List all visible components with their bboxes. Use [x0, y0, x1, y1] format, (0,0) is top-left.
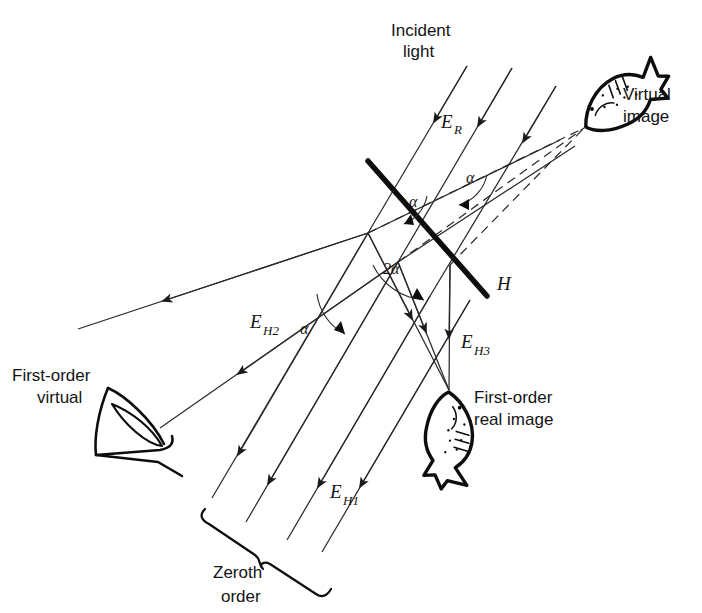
zeroth-ray-3-arrow — [318, 296, 430, 487]
field-label-EH2: E H2 — [249, 311, 279, 338]
virtual-image-label-line1: Virtual — [623, 85, 671, 104]
field-label-ER: E R — [440, 111, 462, 137]
diagram-canvas: Incident light Virtual image First-order… — [0, 0, 702, 613]
zeroth-ray-2-arrow — [268, 262, 398, 484]
first-order-real-beam-group — [368, 233, 450, 390]
arc-alpha-plate-arrowhead — [404, 214, 414, 225]
first-order-virtual-label-line1: First-order — [12, 366, 91, 385]
incident-light-label-line1: Incident — [391, 21, 451, 40]
incident-light-label-line2: light — [403, 42, 434, 61]
zeroth-order-label-line2: order — [221, 587, 261, 606]
first-order-real-label-line1: First-order — [474, 388, 553, 407]
field-EH2-sub: H2 — [262, 323, 279, 338]
incident-ray-2-arrow — [478, 68, 512, 126]
zeroth-order-label-line1: Zeroth — [213, 563, 262, 582]
field-EH2-main: E — [249, 311, 262, 332]
field-label-EH1: E H1 — [329, 481, 359, 508]
first-order-virtual-label-line2: virtual — [37, 388, 82, 407]
holography-ray-diagram: Incident light Virtual image First-order… — [0, 0, 702, 613]
eh2-ray-1-arrow — [163, 233, 368, 301]
field-ER-sub: R — [453, 122, 462, 137]
field-EH1-sub: H1 — [342, 493, 359, 508]
angle-label-alpha-upper: α — [466, 169, 475, 186]
observer-eye-icon — [96, 388, 183, 476]
field-EH3-sub: H3 — [473, 343, 490, 358]
angle-label-alpha-plate: α — [409, 193, 418, 210]
field-label-EH3: E H3 — [460, 331, 490, 358]
hologram-label-H: H — [496, 273, 512, 294]
field-ER-main: E — [440, 111, 453, 132]
angle-label-two-alpha: 2α — [383, 260, 400, 277]
field-EH1-main: E — [329, 481, 342, 502]
dashed-ray-3 — [450, 128, 584, 265]
zeroth-order-beam-group — [212, 233, 470, 552]
first-order-real-label-line2: real image — [474, 410, 553, 429]
zeroth-order-brace — [202, 509, 331, 596]
incident-ray-3-arrow — [523, 86, 556, 142]
zeroth-ray-1-arrow — [238, 233, 368, 455]
angle-label-alpha-left: α — [300, 320, 309, 337]
arc-alpha-upper-arrowhead — [459, 199, 469, 210]
eh2-ray-2-arrow — [238, 262, 398, 374]
virtual-image-label-line2: image — [623, 107, 669, 126]
field-EH3-main: E — [460, 331, 473, 352]
arc-two-alpha-arrowhead — [412, 288, 424, 300]
first-order-real-image-fish — [418, 390, 479, 493]
